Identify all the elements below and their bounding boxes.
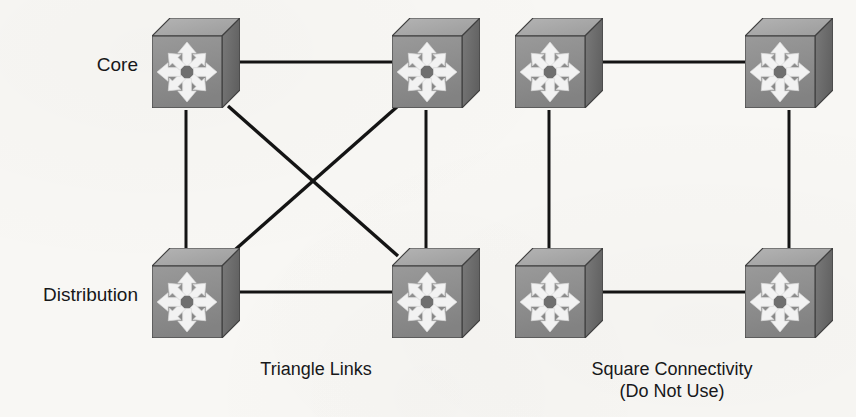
caption-line: (Do Not Use)	[591, 380, 752, 402]
tier-label-distribution: Distribution	[0, 285, 138, 304]
diagram-caption-triangle-links: Triangle Links	[260, 358, 371, 380]
label-layer: CoreDistributionTriangle LinksSquare Con…	[0, 0, 856, 417]
diagram-caption-square-connectivity: Square Connectivity(Do Not Use)	[591, 358, 752, 402]
diagram-page: CoreDistributionTriangle LinksSquare Con…	[0, 0, 856, 417]
caption-line: Square Connectivity	[591, 358, 752, 380]
caption-line: Triangle Links	[260, 358, 371, 380]
tier-label-core: Core	[0, 55, 138, 74]
